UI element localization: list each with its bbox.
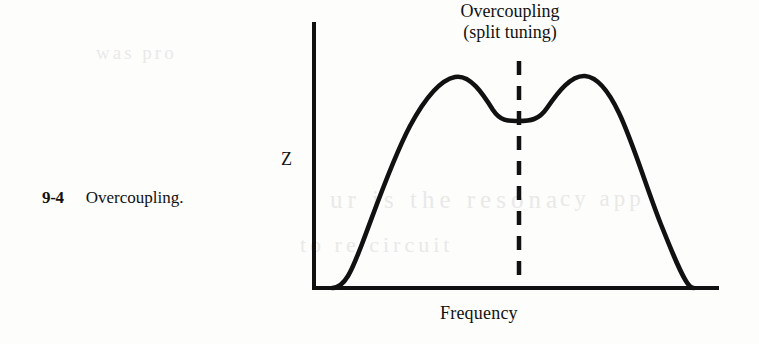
response-curve: [332, 76, 694, 288]
resonance-curve-plot: [0, 0, 759, 344]
figure-page: was pro ur is the resona to re circuit c…: [0, 0, 759, 344]
